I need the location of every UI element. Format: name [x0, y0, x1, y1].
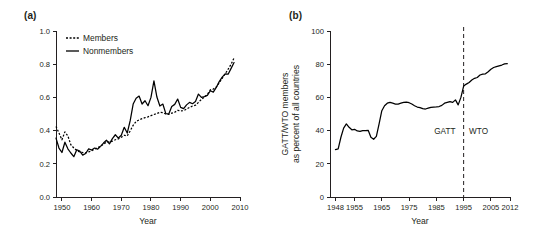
panel-a-xtick-label: 2000 — [202, 203, 219, 212]
panel-b-ytick-label: 60 — [316, 93, 324, 102]
panel-b-xtick-label: 1955 — [346, 203, 363, 212]
panel-b-xtick-label: 1948 — [327, 203, 344, 212]
panel-b-xtick-label: 2012 — [502, 203, 519, 212]
annotation-gatt: GATT — [434, 127, 455, 136]
panel-a-series-members — [56, 58, 234, 153]
panel-b-yaxis-title-line1: GATT/WTO members — [280, 73, 290, 156]
legend-label-members: Members — [83, 33, 118, 43]
panel-a-xtick-label: 2010 — [232, 203, 249, 212]
annotation-wto: WTO — [469, 127, 488, 136]
panel-b-xtick-label: 2005 — [482, 203, 499, 212]
panel-a-xtick-label: 1980 — [143, 203, 160, 212]
panel-b: (b) 020406080100194819551965197519851995… — [270, 0, 540, 231]
panel-b-xtick-label: 1985 — [428, 203, 445, 212]
panel-b-ytick-label: 20 — [316, 160, 324, 169]
panel-b-ytick-label: 0 — [320, 193, 324, 202]
panel-a-ytick-label: 0.8 — [39, 60, 50, 69]
panel-b-ytick-label: 100 — [311, 27, 324, 36]
panel-a: (a) 0.00.20.40.60.81.0195019601970198019… — [0, 0, 270, 231]
panel-b-xtick-label: 1965 — [373, 203, 390, 212]
panel-b-xtick-label: 1975 — [401, 203, 418, 212]
figure-container: (a) 0.00.20.40.60.81.0195019601970198019… — [0, 0, 540, 231]
panel-a-ytick-label: 1.0 — [39, 27, 50, 36]
panel-a-series-nonmembers — [56, 63, 234, 157]
panel-a-ytick-label: 0.2 — [39, 160, 50, 169]
panel-b-yaxis-title: GATT/WTO membersas percent of all countr… — [280, 65, 301, 163]
panel-a-plot: 0.00.20.40.60.81.01950196019701980199020… — [0, 0, 270, 231]
panel-a-ytick-label: 0.0 — [39, 193, 50, 202]
panel-a-xtick-label: 1950 — [53, 203, 70, 212]
panel-a-ytick-label: 0.6 — [39, 93, 50, 102]
panel-b-xaxis-title: Year — [411, 216, 429, 226]
legend-label-nonmembers: Nonmembers — [83, 46, 133, 56]
panel-a-xtick-label: 1990 — [172, 203, 189, 212]
panel-b-yaxis-title-line2: as percent of all countries — [291, 65, 301, 163]
panel-a-xaxis-title: Year — [139, 216, 157, 226]
panel-a-xtick-label: 1960 — [83, 203, 100, 212]
panel-b-series-membership — [335, 64, 507, 150]
panel-b-ytick-label: 40 — [316, 126, 324, 135]
panel-b-xtick-label: 1995 — [455, 203, 472, 212]
panel-a-ytick-label: 0.4 — [39, 126, 50, 135]
panel-b-plot: 0204060801001948195519651975198519952005… — [270, 0, 540, 231]
panel-b-ytick-label: 80 — [316, 60, 324, 69]
panel-b-axes — [330, 31, 510, 197]
panel-a-xtick-label: 1970 — [113, 203, 130, 212]
